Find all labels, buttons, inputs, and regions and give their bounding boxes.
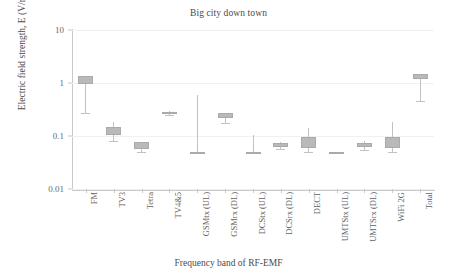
whisker-cap-low: [416, 101, 425, 102]
data-box-tv4-5: [162, 112, 177, 114]
data-box-wifi-2g: [385, 137, 400, 148]
data-box-umtsrx-dl: [357, 143, 372, 147]
whisker-cap-low: [221, 123, 230, 124]
data-box-tv3: [106, 127, 121, 134]
whisker-cap-low: [360, 150, 369, 151]
data-box-dcstx-ul: [246, 152, 261, 154]
chart-root: Big city down town Electric field streng…: [0, 0, 457, 280]
data-box-umtstx-ul: [329, 152, 344, 154]
data-box-gsmrx-dl: [218, 113, 233, 118]
data-box-tetra: [134, 142, 149, 149]
data-box-dect: [301, 137, 316, 148]
data-box-fm: [78, 76, 93, 84]
data-box-total: [413, 74, 428, 79]
whisker-cap-low: [137, 152, 146, 153]
whisker-line: [197, 95, 198, 152]
whisker-cap-low: [81, 113, 90, 114]
data-box-dcsrx-dl: [273, 143, 288, 147]
data-series-layer: [0, 0, 457, 280]
data-box-gsmtx-ul: [190, 152, 205, 154]
whisker-cap-low: [276, 149, 285, 150]
whisker-cap-low: [109, 141, 118, 142]
whisker-cap-low: [304, 152, 313, 153]
whisker-cap-low: [165, 115, 174, 116]
whisker-line: [253, 135, 254, 152]
whisker-cap-low: [388, 152, 397, 153]
